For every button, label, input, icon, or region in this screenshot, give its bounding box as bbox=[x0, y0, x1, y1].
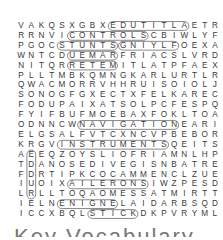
grid-letter[interactable]: R bbox=[128, 51, 138, 61]
grid-letter[interactable]: R bbox=[87, 80, 97, 90]
grid-letter[interactable]: D bbox=[210, 51, 220, 61]
grid-letter[interactable]: A bbox=[189, 120, 199, 130]
grid-letter[interactable]: C bbox=[149, 31, 159, 41]
grid-letter[interactable]: G bbox=[118, 120, 128, 130]
grid-letter[interactable]: C bbox=[57, 120, 67, 130]
grid-letter[interactable]: S bbox=[118, 100, 128, 110]
grid-letter[interactable]: I bbox=[149, 179, 159, 189]
grid-letter[interactable]: L bbox=[159, 90, 169, 100]
grid-letter[interactable]: W bbox=[159, 179, 169, 189]
grid-letter[interactable]: N bbox=[26, 51, 36, 61]
grid-letter[interactable]: A bbox=[36, 80, 46, 90]
grid-letter[interactable]: N bbox=[47, 199, 57, 209]
grid-letter[interactable]: V bbox=[87, 130, 97, 140]
grid-letter[interactable]: L bbox=[138, 61, 148, 71]
grid-letter[interactable]: I bbox=[179, 189, 189, 199]
grid-letter[interactable]: B bbox=[169, 130, 179, 140]
grid-letter[interactable]: I bbox=[47, 179, 57, 189]
grid-letter[interactable]: M bbox=[169, 189, 179, 199]
grid-letter[interactable]: F bbox=[16, 110, 26, 120]
grid-letter[interactable]: C bbox=[47, 41, 57, 51]
grid-letter[interactable]: F bbox=[169, 100, 179, 110]
grid-letter[interactable]: D bbox=[149, 199, 159, 209]
grid-letter[interactable]: M bbox=[118, 140, 128, 150]
grid-letter[interactable]: G bbox=[77, 90, 87, 100]
grid-letter[interactable]: T bbox=[98, 31, 108, 41]
grid-letter[interactable]: O bbox=[200, 110, 210, 120]
grid-letter[interactable]: I bbox=[57, 31, 67, 41]
grid-letter[interactable]: L bbox=[16, 189, 26, 199]
grid-letter[interactable]: L bbox=[189, 150, 199, 160]
grid-letter[interactable]: T bbox=[189, 71, 199, 81]
grid-letter[interactable]: F bbox=[47, 110, 57, 120]
grid-letter[interactable]: A bbox=[210, 41, 220, 51]
grid-letter[interactable]: N bbox=[67, 140, 77, 150]
grid-letter[interactable]: V bbox=[108, 160, 118, 170]
grid-letter[interactable]: V bbox=[16, 21, 26, 31]
grid-letter[interactable]: D bbox=[57, 51, 67, 61]
grid-letter[interactable]: E bbox=[108, 21, 118, 31]
grid-letter[interactable]: R bbox=[179, 71, 189, 81]
grid-letter[interactable]: T bbox=[149, 140, 159, 150]
grid-letter[interactable]: D bbox=[210, 179, 220, 189]
grid-letter[interactable]: N bbox=[128, 41, 138, 51]
grid-letter[interactable]: G bbox=[36, 140, 46, 150]
grid-letter[interactable]: M bbox=[57, 80, 67, 90]
grid-letter[interactable]: M bbox=[108, 189, 118, 199]
grid-letter[interactable]: X bbox=[98, 21, 108, 31]
grid-letter[interactable]: E bbox=[179, 100, 189, 110]
grid-letter[interactable]: E bbox=[36, 150, 46, 160]
grid-letter[interactable]: L bbox=[200, 80, 210, 90]
grid-letter[interactable]: I bbox=[118, 61, 128, 71]
grid-letter[interactable]: O bbox=[118, 179, 128, 189]
grid-letter[interactable]: C bbox=[159, 51, 169, 61]
grid-letter[interactable]: L bbox=[159, 71, 169, 81]
grid-letter[interactable]: W bbox=[67, 120, 77, 130]
grid-letter[interactable]: C bbox=[36, 209, 46, 219]
grid-letter[interactable]: E bbox=[16, 130, 26, 140]
grid-letter[interactable]: N bbox=[36, 120, 46, 130]
grid-letter[interactable]: P bbox=[67, 170, 77, 180]
grid-letter[interactable]: I bbox=[108, 120, 118, 130]
grid-letter[interactable]: E bbox=[98, 179, 108, 189]
grid-letter[interactable]: Q bbox=[87, 71, 97, 81]
grid-letter[interactable]: P bbox=[210, 150, 220, 160]
grid-letter[interactable]: D bbox=[210, 199, 220, 209]
grid-letter[interactable]: T bbox=[98, 209, 108, 219]
grid-letter[interactable]: T bbox=[98, 41, 108, 51]
grid-letter[interactable]: T bbox=[200, 189, 210, 199]
grid-letter[interactable]: Q bbox=[67, 209, 77, 219]
grid-letter[interactable]: T bbox=[159, 21, 169, 31]
grid-letter[interactable]: U bbox=[77, 41, 87, 51]
grid-letter[interactable]: H bbox=[108, 80, 118, 90]
grid-letter[interactable]: P bbox=[16, 41, 26, 51]
grid-letter[interactable]: O bbox=[118, 150, 128, 160]
grid-letter[interactable]: U bbox=[67, 51, 77, 61]
grid-letter[interactable]: I bbox=[36, 110, 46, 120]
grid-letter[interactable]: R bbox=[16, 31, 26, 41]
grid-letter[interactable]: I bbox=[26, 61, 36, 71]
grid-letter[interactable]: G bbox=[118, 71, 128, 81]
grid-letter[interactable]: A bbox=[149, 51, 159, 61]
grid-letter[interactable]: I bbox=[149, 150, 159, 160]
grid-letter[interactable]: U bbox=[169, 71, 179, 81]
grid-letter[interactable]: F bbox=[138, 90, 148, 100]
grid-letter[interactable]: Y bbox=[77, 150, 87, 160]
grid-letter[interactable]: A bbox=[87, 189, 97, 199]
grid-letter[interactable]: E bbox=[118, 160, 128, 170]
grid-letter[interactable]: N bbox=[36, 31, 46, 41]
grid-letter[interactable]: S bbox=[57, 41, 67, 51]
grid-letter[interactable]: A bbox=[98, 100, 108, 110]
grid-letter[interactable]: O bbox=[159, 110, 169, 120]
grid-letter[interactable]: C bbox=[87, 170, 97, 180]
grid-letter[interactable]: E bbox=[98, 90, 108, 100]
grid-letter[interactable]: X bbox=[57, 179, 67, 189]
grid-letter[interactable]: M bbox=[200, 209, 210, 219]
grid-letter[interactable]: F bbox=[77, 130, 87, 140]
grid-letter[interactable]: U bbox=[26, 179, 36, 189]
grid-letter[interactable]: A bbox=[67, 179, 77, 189]
grid-letter[interactable]: M bbox=[108, 61, 118, 71]
grid-letter[interactable]: N bbox=[47, 160, 57, 170]
grid-letter[interactable]: N bbox=[169, 120, 179, 130]
grid-letter[interactable]: O bbox=[98, 110, 108, 120]
